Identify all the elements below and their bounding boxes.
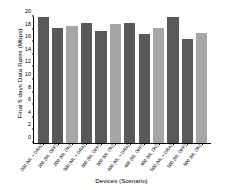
y-tick-label: 14 xyxy=(25,46,31,52)
bar-slot xyxy=(195,17,209,143)
bar-slot xyxy=(36,17,50,143)
bar-slot xyxy=(137,17,151,143)
bar xyxy=(196,33,207,143)
y-tick-label: 0 xyxy=(28,134,31,140)
bar-series xyxy=(34,17,211,143)
bar xyxy=(153,28,164,143)
y-tick-label: 6 xyxy=(28,96,31,102)
bar xyxy=(66,26,77,143)
bar-slot xyxy=(108,17,122,143)
bar-chart-figure: Final 5 days Data Rates (Mbps) 024681012… xyxy=(0,0,230,190)
bar xyxy=(38,17,49,143)
y-tick-label: 12 xyxy=(25,58,31,64)
bar xyxy=(182,39,193,143)
bar-slot xyxy=(151,17,165,143)
bar-slot xyxy=(123,17,137,143)
bar-slot xyxy=(94,17,108,143)
bar xyxy=(52,28,63,143)
bar xyxy=(110,24,121,143)
y-tick-label: 10 xyxy=(25,71,31,77)
bar xyxy=(81,23,92,143)
y-tick-label: 20 xyxy=(25,8,31,14)
bar-slot xyxy=(65,17,79,143)
bar xyxy=(95,31,106,143)
bar xyxy=(139,34,150,143)
y-tick-label: 8 xyxy=(28,84,31,90)
bar-slot xyxy=(79,17,93,143)
y-tick-label: 4 xyxy=(28,109,31,115)
y-tick-label: 18 xyxy=(25,21,31,27)
plot-area: 02468101214161820 xyxy=(33,17,211,144)
bar xyxy=(124,23,135,143)
bar-slot xyxy=(166,17,180,143)
x-axis-tick-labels: 200 (ML + DRA)200 (ML OFF)200 (ML ON)300… xyxy=(33,145,210,177)
y-tick-label: 2 xyxy=(28,121,31,127)
bar-slot xyxy=(50,17,64,143)
bar-slot xyxy=(180,17,194,143)
x-axis-title: Devices (Scenario) xyxy=(33,177,210,185)
y-tick-label: 16 xyxy=(25,33,31,39)
bar xyxy=(167,17,178,143)
